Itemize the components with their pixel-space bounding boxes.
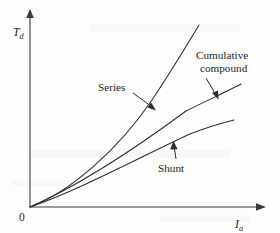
curve-shunt — [30, 120, 234, 207]
annotation-cumulative-compound-line1: Cumulative — [196, 49, 248, 61]
origin-label: 0 — [19, 211, 25, 223]
y-axis-arrowhead — [26, 9, 34, 18]
torque-vs-current-chart: Td Ia 0 Series Cumulative compound Shunt — [0, 0, 280, 233]
curve-series — [30, 25, 199, 207]
x-axis-label: Ia — [234, 217, 243, 233]
cumulative-compound-leader — [206, 78, 219, 100]
annotation-series: Series — [98, 81, 125, 93]
x-axis-arrowhead — [256, 203, 266, 211]
series-leader — [133, 93, 156, 111]
annotation-shunt: Shunt — [158, 162, 185, 174]
annotation-cumulative-compound-line2: compound — [200, 62, 248, 74]
figure-root: Td Ia 0 Series Cumulative compound Shunt — [0, 0, 280, 233]
y-axis — [26, 9, 34, 207]
shunt-leader — [170, 141, 177, 159]
x-axis — [30, 203, 266, 211]
series-arrowhead — [148, 103, 157, 111]
y-axis-label: Td — [13, 25, 25, 41]
curve-cumulative-compound — [30, 84, 241, 207]
